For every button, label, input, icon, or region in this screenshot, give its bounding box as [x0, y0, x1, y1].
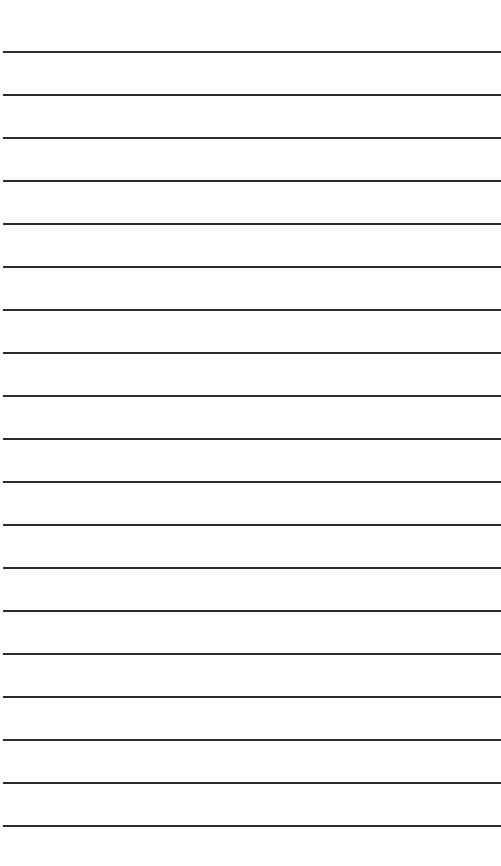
- ruled-line: [3, 438, 501, 440]
- ruled-line: [3, 696, 501, 698]
- ruled-line: [3, 266, 501, 268]
- ruled-line: [3, 51, 501, 53]
- ruled-line: [3, 352, 501, 354]
- ruled-line: [3, 524, 501, 526]
- ruled-line: [3, 739, 501, 741]
- ruled-line: [3, 137, 501, 139]
- ruled-line: [3, 610, 501, 612]
- ruled-line: [3, 825, 501, 827]
- ruled-line: [3, 180, 501, 182]
- ruled-line: [3, 567, 501, 569]
- ruled-line: [3, 395, 501, 397]
- ruled-line: [3, 653, 501, 655]
- ruled-line: [3, 309, 501, 311]
- ruled-line: [3, 223, 501, 225]
- ruled-line: [3, 481, 501, 483]
- ruled-line: [3, 94, 501, 96]
- ruled-line: [3, 782, 501, 784]
